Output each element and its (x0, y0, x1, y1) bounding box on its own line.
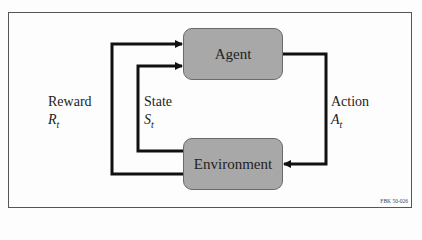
agent-label: Agent (215, 46, 252, 63)
state-label: State (144, 94, 172, 110)
action-symbol: At (331, 112, 342, 133)
reward-symbol: Rt (48, 112, 59, 133)
state-symbol: St (144, 112, 154, 133)
reward-label: Reward (48, 94, 92, 110)
figure-code: FBK 50-026 (380, 198, 408, 204)
environment-node: Environment (183, 138, 283, 190)
action-arrow (283, 54, 326, 164)
action-label: Action (331, 94, 369, 110)
agent-node: Agent (183, 28, 283, 80)
environment-label: Environment (194, 156, 272, 173)
